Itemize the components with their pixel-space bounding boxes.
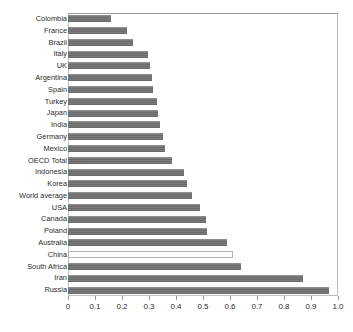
bar xyxy=(68,133,163,140)
bar-row xyxy=(68,237,338,249)
category-label: Argentina xyxy=(0,72,67,84)
bar-row xyxy=(68,107,338,119)
bar-row xyxy=(68,119,338,131)
bar xyxy=(68,275,303,282)
bar xyxy=(68,15,111,22)
bar xyxy=(68,39,133,46)
category-label: France xyxy=(0,25,67,37)
bar xyxy=(68,27,127,34)
x-axis-ticks xyxy=(68,296,339,301)
bar xyxy=(68,169,184,176)
bar xyxy=(68,62,150,69)
x-tick-label: 0.4 xyxy=(161,302,191,311)
category-label: South Africa xyxy=(0,261,67,273)
x-axis-tick-labels: 00.10.20.30.40.50.60.70.80.91.0 xyxy=(0,302,353,316)
category-label: Poland xyxy=(0,225,67,237)
bar xyxy=(68,145,165,152)
category-label: Australia xyxy=(0,237,67,249)
category-label: Canada xyxy=(0,213,67,225)
x-tick-label: 0.6 xyxy=(215,302,245,311)
x-tick xyxy=(149,296,150,300)
bar-row xyxy=(68,155,338,167)
bar xyxy=(68,251,233,258)
bar-row xyxy=(68,13,338,25)
bar-row xyxy=(68,48,338,60)
bar-row xyxy=(68,60,338,72)
bar xyxy=(68,239,227,246)
x-tick xyxy=(122,296,123,300)
x-tick xyxy=(311,296,312,300)
x-tick-label: 0.5 xyxy=(188,302,218,311)
x-tick xyxy=(257,296,258,300)
bar xyxy=(68,180,187,187)
bar xyxy=(68,228,207,235)
bar-chart: ColombiaFranceBrazilItalyUKArgentinaSpai… xyxy=(0,0,353,332)
category-label: USA xyxy=(0,202,67,214)
bar xyxy=(68,51,148,58)
bar xyxy=(68,157,172,164)
bar xyxy=(68,98,157,105)
bar-row xyxy=(68,261,338,273)
bar xyxy=(68,204,200,211)
category-label: Spain xyxy=(0,84,67,96)
bar-row xyxy=(68,213,338,225)
cropped-header-artifact xyxy=(180,0,353,7)
bar-row xyxy=(68,284,338,296)
category-label: Korea xyxy=(0,178,67,190)
bar-row xyxy=(68,131,338,143)
x-tick xyxy=(203,296,204,300)
category-label: World average xyxy=(0,190,67,202)
category-label: Japan xyxy=(0,107,67,119)
bar-row xyxy=(68,25,338,37)
category-label: Brazil xyxy=(0,37,67,49)
category-label: Colombia xyxy=(0,13,67,25)
category-label: Germany xyxy=(0,131,67,143)
bar-row xyxy=(68,143,338,155)
bar-row xyxy=(68,84,338,96)
x-tick-label: 0.3 xyxy=(134,302,164,311)
x-tick xyxy=(95,296,96,300)
bar xyxy=(68,216,206,223)
bar xyxy=(68,86,153,93)
category-label: Iran xyxy=(0,272,67,284)
bar-row xyxy=(68,272,338,284)
bar-row xyxy=(68,37,338,49)
category-label: Indonesia xyxy=(0,166,67,178)
x-tick-label: 1.0 xyxy=(323,302,353,311)
bar-row xyxy=(68,166,338,178)
x-tick xyxy=(230,296,231,300)
x-tick xyxy=(176,296,177,300)
category-label: China xyxy=(0,249,67,261)
bar-row xyxy=(68,96,338,108)
category-label: Turkey xyxy=(0,96,67,108)
bar-row xyxy=(68,249,338,261)
bar xyxy=(68,121,160,128)
x-tick-label: 0 xyxy=(53,302,83,311)
bar-row xyxy=(68,202,338,214)
category-label: OECD Total xyxy=(0,155,67,167)
x-tick xyxy=(284,296,285,300)
x-tick-label: 0.1 xyxy=(80,302,110,311)
x-tick xyxy=(68,296,69,300)
x-tick-label: 0.9 xyxy=(296,302,326,311)
category-label: UK xyxy=(0,60,67,72)
bar xyxy=(68,192,192,199)
bar-series xyxy=(68,13,338,296)
bar xyxy=(68,110,158,117)
x-tick-label: 0.8 xyxy=(269,302,299,311)
bar-row xyxy=(68,178,338,190)
bar xyxy=(68,74,152,81)
bar-row xyxy=(68,190,338,202)
bar-row xyxy=(68,225,338,237)
bar xyxy=(68,287,329,294)
bar-row xyxy=(68,72,338,84)
bar xyxy=(68,263,241,270)
x-tick-label: 0.7 xyxy=(242,302,272,311)
x-tick xyxy=(338,296,339,300)
category-label: India xyxy=(0,119,67,131)
x-tick-label: 0.2 xyxy=(107,302,137,311)
category-label: Italy xyxy=(0,48,67,60)
category-label: Mexico xyxy=(0,143,67,155)
category-label: Russia xyxy=(0,284,67,296)
